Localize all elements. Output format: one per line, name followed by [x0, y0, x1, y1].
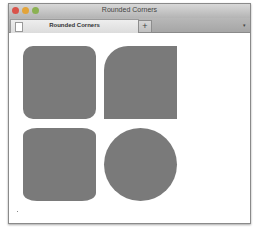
- title-bar[interactable]: Rounded Corners: [9, 4, 250, 18]
- chevron-down-icon[interactable]: ▾: [243, 22, 246, 28]
- tab-rounded-corners[interactable]: Rounded Corners: [10, 19, 139, 33]
- stray-mark: [17, 211, 18, 212]
- tab-bar: Rounded Corners + ▾: [9, 18, 250, 33]
- tab-label: Rounded Corners: [11, 22, 138, 28]
- top-left-rounded-square: [104, 46, 177, 119]
- window-title: Rounded Corners: [9, 6, 250, 13]
- circle: [104, 128, 177, 201]
- browser-window: Rounded Corners Rounded Corners + ▾: [8, 3, 251, 224]
- page-content: [9, 33, 250, 223]
- elliptical-corner-square: [23, 128, 96, 201]
- rounded-square: [23, 46, 96, 119]
- new-tab-button[interactable]: +: [138, 20, 152, 33]
